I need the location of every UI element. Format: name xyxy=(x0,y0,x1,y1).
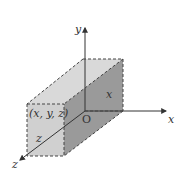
y-axis-label: y xyxy=(74,23,82,36)
x-axis-label: x xyxy=(168,113,175,126)
coordinate-box-diagram: y x z O (x, y, z) x z xyxy=(0,0,183,178)
point-label: (x, y, z) xyxy=(29,107,68,120)
z-axis-label: z xyxy=(11,158,18,171)
z-edge-label: z xyxy=(35,132,42,145)
x-edge-label: x xyxy=(106,88,113,101)
origin-label: O xyxy=(82,113,91,126)
